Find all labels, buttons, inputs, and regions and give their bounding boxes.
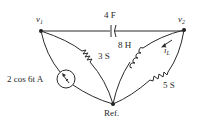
node-v2-label: v2 <box>178 14 185 25</box>
wire-inductor-ref <box>113 62 130 104</box>
resistor-3s-label: 3 S <box>98 51 110 61</box>
wire-v1-3s <box>41 31 82 51</box>
circuit-diagram: v1 v2 4 F 3 S 8 H 5 S 2 cos 6t A Ref. iL <box>0 0 197 121</box>
inductor-icon <box>130 47 143 68</box>
inductor-label: 8 H <box>118 40 132 50</box>
node-v1-label: v1 <box>36 14 43 25</box>
ref-label: Ref. <box>104 108 119 118</box>
wire-3s-ref <box>90 62 113 104</box>
capacitor-label: 4 F <box>104 10 116 20</box>
wire-v2-5s <box>168 30 184 72</box>
current-source-icon <box>57 70 75 88</box>
current-source-label: 2 cos 6t A <box>7 74 44 84</box>
current-il-label: iL <box>164 45 171 56</box>
resistor-3s-icon <box>82 50 92 62</box>
resistor-5s-label: 5 S <box>163 80 175 90</box>
